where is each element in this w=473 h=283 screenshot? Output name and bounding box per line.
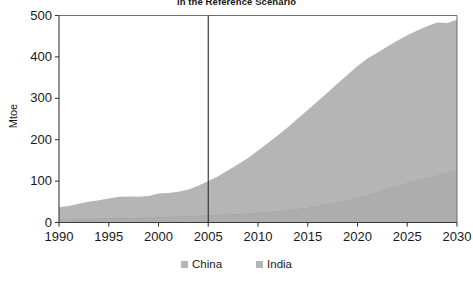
y-tick-label-100: 100 [0,174,52,187]
y-tick-label-0: 0 [0,216,52,229]
x-tick-label-2000: 2000 [133,230,185,243]
x-tick-label-2005: 2005 [182,230,234,243]
legend-label: India [267,258,292,270]
x-tick-label-2025: 2025 [381,230,433,243]
legend-item-india[interactable]: India [256,258,292,270]
y-tick-label-500: 500 [0,9,52,22]
x-tick-label-2030: 2030 [431,230,473,243]
x-tick-label-2020: 2020 [332,230,384,243]
legend-swatch-icon [256,261,263,268]
y-tick-label-400: 400 [0,50,52,63]
chart-legend: ChinaIndia [0,258,473,270]
legend-item-china[interactable]: China [181,258,222,270]
legend-label: China [192,258,222,270]
x-tick-label-2015: 2015 [282,230,334,243]
x-tick-label-1995: 1995 [83,230,135,243]
chart-figure: in the Reference Scenario Mtoe 010020030… [0,0,473,283]
y-tick-label-200: 200 [0,133,52,146]
x-tick-label-2010: 2010 [232,230,284,243]
stacked-areas-group [59,20,457,223]
y-tick-label-300: 300 [0,91,52,104]
x-tick-label-1990: 1990 [33,230,85,243]
legend-swatch-icon [181,261,188,268]
